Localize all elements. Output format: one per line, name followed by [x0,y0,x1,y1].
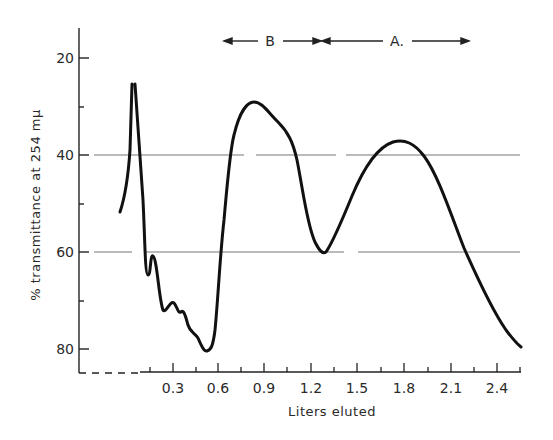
x-tick-label: 1.8 [393,380,415,396]
y-tick-labels: 20 40 60 80 [56,50,74,357]
y-axis-title: % transmittance at 254 mμ [28,109,43,300]
y-tick-label: 40 [56,147,74,163]
x-tick-label: 1.5 [346,380,368,396]
gridlines [94,155,520,252]
y-tick-label: 80 [56,341,74,357]
y-ticks [79,58,89,349]
x-tick-label: 1.2 [300,380,322,396]
x-tick-label: 0.6 [207,380,229,396]
chromatogram-chart: 20 40 60 80 % transmittance at 254 mμ 0.… [0,0,553,440]
y-tick-label: 60 [56,244,74,260]
x-tick-label: 0.9 [253,380,275,396]
range-label-a: A. [390,33,404,49]
x-tick-label: 0.3 [162,380,184,396]
x-tick-label: 2.4 [486,380,508,396]
range-label-b: B [265,33,275,49]
x-tick-label: 2.1 [440,380,462,396]
x-axis-title: Liters eluted [288,404,376,419]
x-tick-labels: 0.3 0.6 0.9 1.2 1.5 1.8 2.1 2.4 [162,380,508,396]
y-tick-label: 20 [56,50,74,66]
data-trace [120,84,521,351]
x-ticks [150,363,520,372]
